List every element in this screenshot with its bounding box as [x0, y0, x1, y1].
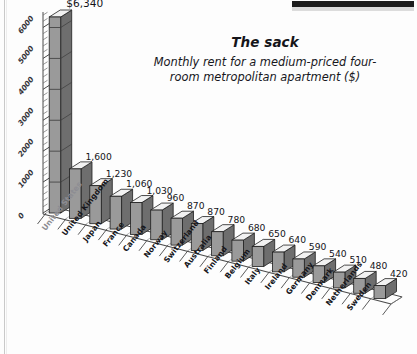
bar-value-label: 870: [187, 200, 205, 211]
bar-value-label: 650: [268, 228, 286, 239]
bar-value-label: 1,230: [106, 168, 132, 179]
bar-value-label: 540: [329, 248, 347, 259]
bar-value-label: 780: [228, 214, 246, 225]
bar-value-label: 480: [370, 260, 388, 271]
bar-value-label: 1,600: [86, 151, 112, 162]
chart-subtitle: Monthly rent for a medium-priced four-ro…: [150, 55, 380, 84]
bar: [252, 239, 275, 266]
bar-value-label: 680: [248, 222, 266, 233]
chart-title: The sack: [150, 34, 380, 50]
bar-value-label: 590: [309, 241, 327, 252]
chart-figure: The sack Monthly rent for a medium-price…: [0, 0, 417, 354]
bar: [374, 279, 397, 299]
chart-title-block: The sack Monthly rent for a medium-price…: [150, 34, 380, 84]
bar-value-label: 420: [390, 268, 408, 279]
bar-value-label: 640: [289, 234, 307, 245]
bar-value-label: 870: [207, 206, 225, 217]
bar: [49, 10, 71, 213]
bar-value-label: $6,340: [66, 0, 103, 9]
bar-value-label: 960: [167, 192, 185, 203]
